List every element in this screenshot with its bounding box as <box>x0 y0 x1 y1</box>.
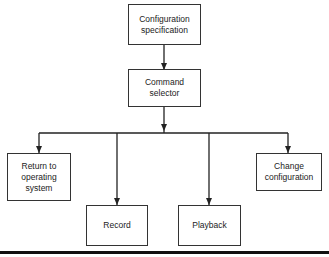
arrowhead-icon <box>161 124 167 131</box>
flowchart-canvas: Configuration specification Command sele… <box>0 0 329 257</box>
node-label: Playback <box>192 220 227 231</box>
node-label: Command selector <box>145 77 184 99</box>
node-command-selector: Command selector <box>128 69 201 107</box>
bottom-rule <box>0 251 329 254</box>
node-label: Configuration specification <box>139 14 190 36</box>
node-change-configuration: Change configuration <box>256 153 322 191</box>
node-playback: Playback <box>178 205 241 246</box>
node-record: Record <box>86 205 148 246</box>
arrowhead-icon <box>114 198 120 205</box>
node-label: Return to operating system <box>21 161 56 194</box>
arrowhead-icon <box>285 146 291 153</box>
node-return-to-operating-system: Return to operating system <box>7 153 71 201</box>
node-label: Record <box>103 220 130 231</box>
arrowhead-icon <box>36 146 42 153</box>
node-configuration-specification: Configuration specification <box>128 4 201 45</box>
node-label: Change configuration <box>265 161 314 183</box>
arrowhead-icon <box>206 198 212 205</box>
